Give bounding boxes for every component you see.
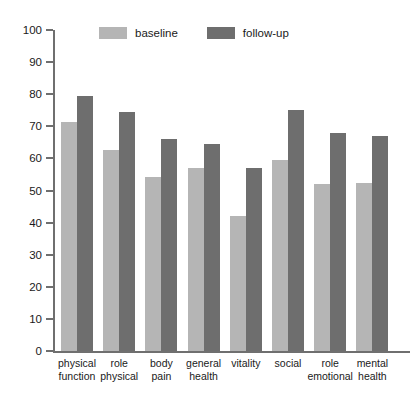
y-axis-tick-mark bbox=[46, 350, 53, 352]
y-axis-tick-mark bbox=[46, 286, 53, 288]
bar-follow-up bbox=[77, 96, 93, 351]
y-axis-tick-label: 90 bbox=[29, 54, 42, 70]
y-axis-tick-mark bbox=[46, 318, 53, 320]
y-axis-tick-label: 80 bbox=[29, 86, 42, 102]
bar-follow-up bbox=[204, 144, 220, 351]
x-axis-labels: physicalfunctionrolephysicalbodypaingene… bbox=[55, 357, 408, 397]
y-axis-tick-mark bbox=[46, 93, 53, 95]
bar-follow-up bbox=[372, 136, 388, 351]
y-axis: 0102030405060708090100 bbox=[0, 30, 53, 351]
bar-baseline bbox=[145, 177, 161, 351]
bar-baseline bbox=[356, 183, 372, 351]
y-axis-tick-label: 70 bbox=[29, 118, 42, 134]
bar-group bbox=[103, 30, 135, 351]
y-axis-tick-label: 10 bbox=[29, 311, 42, 327]
y-axis-tick-mark bbox=[46, 190, 53, 192]
bar-group bbox=[145, 30, 177, 351]
y-axis-tick-label: 100 bbox=[23, 22, 42, 38]
bar-follow-up bbox=[161, 139, 177, 352]
bar-chart: baseline follow-up 010203040506070809010… bbox=[0, 0, 413, 403]
y-axis-tick-label: 0 bbox=[36, 343, 42, 359]
bar-follow-up bbox=[119, 112, 135, 351]
bar-group bbox=[230, 30, 262, 351]
bar-group bbox=[314, 30, 346, 351]
bar-group bbox=[356, 30, 388, 351]
bar-baseline bbox=[230, 216, 246, 351]
y-axis-tick-label: 30 bbox=[29, 247, 42, 263]
bar-follow-up bbox=[330, 133, 346, 351]
x-axis-label-line: mental bbox=[338, 357, 406, 370]
bar-baseline bbox=[61, 122, 77, 351]
y-axis-tick-mark bbox=[46, 29, 53, 31]
y-axis-tick-mark bbox=[46, 157, 53, 159]
y-axis-tick-label: 40 bbox=[29, 215, 42, 231]
y-axis-tick-label: 50 bbox=[29, 183, 42, 199]
y-axis-tick-mark bbox=[46, 125, 53, 127]
bar-group bbox=[188, 30, 220, 351]
bar-baseline bbox=[314, 184, 330, 351]
y-axis-tick-mark bbox=[46, 222, 53, 224]
bar-group bbox=[61, 30, 93, 351]
bar-group bbox=[272, 30, 304, 351]
bar-follow-up bbox=[288, 110, 304, 351]
y-axis-tick-label: 20 bbox=[29, 279, 42, 295]
x-axis-label-line: health bbox=[170, 370, 238, 383]
y-axis-tick-mark bbox=[46, 61, 53, 63]
bar-follow-up bbox=[246, 168, 262, 351]
x-axis-label-line: health bbox=[338, 370, 406, 383]
x-axis-label: mentalhealth bbox=[338, 357, 406, 383]
bar-baseline bbox=[103, 150, 119, 351]
y-axis-tick-mark bbox=[46, 254, 53, 256]
y-axis-tick-label: 60 bbox=[29, 150, 42, 166]
bar-baseline bbox=[272, 160, 288, 351]
bar-baseline bbox=[188, 168, 204, 351]
bars-layer bbox=[55, 30, 408, 351]
